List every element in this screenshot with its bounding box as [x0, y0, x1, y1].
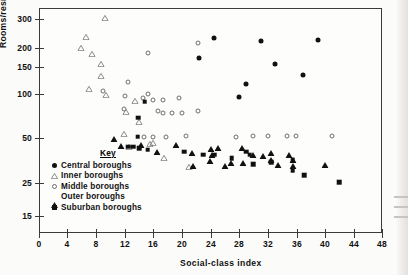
data-point: [197, 55, 202, 60]
y-tick-label: 100: [4, 89, 32, 99]
data-point: [302, 173, 307, 178]
x-tick: [96, 229, 97, 238]
data-point: [212, 153, 217, 158]
legend-marker-filled-square-icon: [48, 205, 61, 210]
x-tick: [125, 229, 126, 238]
data-point: [78, 45, 85, 51]
x-tick-label: 16: [143, 239, 163, 249]
data-point: [173, 134, 180, 140]
legend-marker-open-triangle-icon: [48, 173, 61, 179]
x-tick-label: 36: [287, 239, 307, 249]
x-tick-label: 32: [258, 239, 278, 249]
legend-item: Suburban boroughs: [48, 202, 154, 213]
data-point: [272, 61, 277, 66]
data-point: [265, 133, 270, 138]
x-tick-label: 44: [344, 239, 364, 249]
data-point: [88, 51, 95, 57]
legend-item: Outer boroughs: [48, 192, 154, 203]
data-point: [212, 35, 217, 40]
x-tick: [325, 229, 326, 238]
y-tick-label: 300: [4, 14, 32, 24]
data-point: [290, 168, 295, 173]
y-tick-label: 200: [4, 43, 32, 53]
x-tick: [239, 229, 240, 238]
data-point: [250, 144, 257, 150]
legend-item-label: Inner boroughs: [61, 171, 123, 180]
y-tick: [35, 67, 44, 68]
data-point: [182, 149, 187, 154]
data-point: [286, 144, 293, 150]
legend-item-label: Suburban boroughs: [61, 203, 142, 212]
y-tick: [35, 216, 44, 217]
legend-title: Key: [62, 148, 154, 158]
data-point: [315, 38, 320, 43]
data-point: [164, 134, 169, 139]
x-tick: [153, 229, 154, 238]
y-tick: [35, 48, 44, 49]
legend-item: Inner boroughs: [48, 171, 154, 182]
data-point: [131, 98, 138, 104]
data-point: [214, 137, 221, 143]
data-point: [275, 154, 282, 160]
data-point: [183, 133, 188, 138]
legend-item: Middle boroughs: [48, 181, 154, 192]
data-point: [330, 133, 335, 138]
edge-artifact: [394, 196, 408, 198]
y-tick: [35, 94, 44, 95]
data-point: [136, 115, 141, 120]
data-point: [151, 97, 156, 102]
x-tick-label: 8: [86, 239, 106, 249]
y-axis-title: Rooms/residential acre (log scale): [0, 0, 8, 48]
data-point: [195, 109, 200, 114]
x-tick: [182, 229, 183, 238]
data-point: [268, 149, 275, 155]
x-tick-label: 0: [29, 239, 49, 249]
data-point: [98, 73, 105, 79]
data-point: [151, 134, 156, 139]
data-point: [118, 135, 125, 141]
data-point: [135, 135, 140, 140]
data-point: [201, 153, 206, 158]
data-point: [161, 155, 168, 161]
data-point: [160, 97, 165, 102]
legend-marker-filled-circle-icon: [48, 163, 61, 168]
edge-artifact: [394, 206, 408, 208]
data-point: [321, 154, 328, 160]
data-point: [177, 96, 182, 101]
legend-item-label: Middle boroughs: [61, 182, 129, 191]
legend-marker-open-circle-icon: [48, 184, 61, 189]
data-point: [143, 100, 148, 105]
y-tick-label: 15: [4, 211, 32, 221]
data-point: [83, 34, 90, 40]
data-point: [258, 38, 263, 43]
x-tick: [354, 229, 355, 238]
x-tick-label: 24: [201, 239, 221, 249]
data-point: [136, 119, 143, 125]
data-point: [221, 155, 228, 161]
data-point: [153, 141, 160, 147]
data-point: [160, 110, 165, 115]
data-point: [290, 158, 295, 163]
x-tick: [297, 229, 298, 238]
y-tick-label: 150: [4, 62, 32, 72]
x-tick-label: 28: [229, 239, 249, 249]
legend-marker-filled-triangle-icon: [48, 194, 61, 200]
data-point: [244, 81, 249, 86]
data-point: [125, 79, 130, 84]
x-tick-label: 40: [315, 239, 335, 249]
page-edge-shadow: [394, 0, 408, 275]
data-point: [122, 107, 127, 112]
data-point: [259, 145, 266, 151]
x-tick: [382, 229, 383, 238]
x-tick-label: 12: [115, 239, 135, 249]
data-point: [337, 180, 342, 185]
data-point: [146, 50, 151, 55]
x-tick-label: 20: [172, 239, 192, 249]
data-point: [294, 133, 299, 138]
y-tick: [35, 19, 44, 20]
x-tick: [39, 229, 40, 238]
data-point: [179, 110, 184, 115]
data-point: [230, 156, 235, 161]
data-point: [122, 94, 127, 99]
data-point: [86, 86, 93, 92]
